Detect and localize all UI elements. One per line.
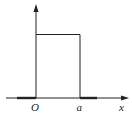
pulse-outline	[36, 35, 80, 99]
x-axis-label: x	[118, 101, 124, 113]
x-axis-arrow-icon	[121, 96, 129, 101]
y-axis-arrow-icon	[34, 4, 39, 12]
pulse-diagram: O a x	[0, 0, 132, 117]
a-label: a	[77, 101, 83, 113]
origin-label: O	[31, 101, 39, 113]
